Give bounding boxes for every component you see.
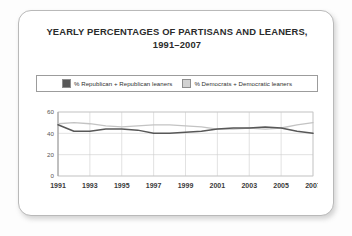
y-axis-tick-label: 0 [51, 172, 55, 179]
x-axis-tick-label: 1999 [178, 182, 194, 189]
chart-plot-area: 0204060199119931995199719992001200320052… [36, 106, 318, 198]
legend-item-republican: % Republican + Republican leaners [62, 79, 172, 88]
x-axis-tick-label: 1993 [82, 182, 98, 189]
legend-label-democrat: % Democrats + Democratic leaners [194, 80, 292, 87]
legend-item-democrat: % Democrats + Democratic leaners [182, 79, 292, 88]
x-axis-tick-label: 1995 [114, 182, 130, 189]
chart-title-line-1: YEARLY PERCENTAGES OF PARTISANS AND LEAN… [46, 26, 307, 37]
y-axis-tick-label: 40 [47, 130, 54, 137]
screenshot-root: YEARLY PERCENTAGES OF PARTISANS AND LEAN… [0, 0, 352, 236]
x-axis-tick-label: 2003 [241, 182, 257, 189]
x-axis-tick-label: 2001 [210, 182, 226, 189]
x-axis-tick-label: 2007 [305, 182, 318, 189]
chart-legend: % Republican + Republican leaners % Demo… [36, 75, 318, 92]
chart-title-line-2: 1991–2007 [33, 38, 321, 51]
legend-swatch-democrat [182, 79, 191, 88]
x-axis-tick-label: 1997 [146, 182, 162, 189]
chart-title: YEARLY PERCENTAGES OF PARTISANS AND LEAN… [33, 25, 321, 51]
chart-card: YEARLY PERCENTAGES OF PARTISANS AND LEAN… [18, 10, 334, 216]
legend-swatch-republican [62, 79, 71, 88]
line-chart-svg: 0204060199119931995199719992001200320052… [36, 106, 318, 198]
x-axis-tick-label: 1991 [50, 182, 66, 189]
x-axis-tick-label: 2005 [273, 182, 289, 189]
y-axis-tick-label: 20 [47, 151, 54, 158]
y-axis-tick-label: 60 [47, 108, 54, 115]
legend-label-republican: % Republican + Republican leaners [74, 80, 172, 87]
